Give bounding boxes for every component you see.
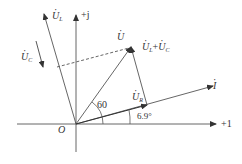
ul-plus-uc-label: UL+UC bbox=[142, 42, 169, 53]
imag-axis-label: +j bbox=[81, 10, 89, 20]
angle-arc-6-9 bbox=[129, 110, 130, 124]
u-label: U bbox=[117, 32, 124, 42]
angle-label-60: 60 bbox=[97, 100, 107, 110]
real-axis-label: +1 bbox=[221, 119, 232, 129]
u-phasor-arrow bbox=[76, 47, 131, 124]
ul-label: UL bbox=[52, 11, 63, 22]
ul-phasor-arrow bbox=[44, 14, 76, 124]
uc-label: UC bbox=[21, 52, 32, 63]
uc-phasor-arrow bbox=[36, 41, 43, 67]
origin-label: O bbox=[58, 125, 65, 135]
ur-label: UR bbox=[132, 92, 143, 103]
i-label: I bbox=[213, 81, 216, 91]
angle-label-6-9: 6.9° bbox=[137, 112, 152, 121]
phasor-diagram: O +1 +j UL UC U UL+UC UR I 60 6.9° bbox=[0, 0, 242, 164]
